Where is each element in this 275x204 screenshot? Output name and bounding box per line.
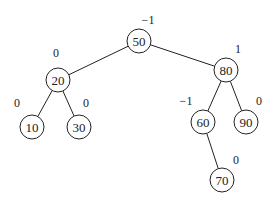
edge-80-90 [230, 81, 241, 111]
balance-factor-60: −1 [180, 94, 193, 108]
node-value: 10 [26, 120, 39, 135]
edge-50-80 [150, 45, 214, 66]
balance-factor-90: 0 [256, 94, 262, 108]
tree-node-70: 70 [210, 168, 234, 192]
tree-node-10: 10 [20, 115, 44, 139]
tree-node-80: 80 [214, 58, 238, 82]
node-value: 90 [240, 115, 253, 130]
balance-factor-10: 0 [14, 96, 20, 110]
balance-factor-80: 1 [235, 42, 241, 56]
node-value: 20 [52, 73, 65, 88]
edge-20-30 [63, 91, 74, 116]
edge-50-20 [69, 46, 128, 75]
node-value: 60 [197, 115, 210, 130]
tree-node-30: 30 [67, 115, 91, 139]
node-value: 30 [73, 120, 86, 135]
edges-layer [38, 45, 242, 169]
avl-tree-diagram: 5020801030609070 −10100−100 [0, 0, 275, 204]
tree-canvas: 5020801030609070 −10100−100 [0, 0, 275, 204]
edge-80-60 [208, 81, 221, 111]
node-value: 80 [220, 63, 233, 78]
tree-node-50: 50 [127, 29, 151, 53]
tree-node-20: 20 [46, 68, 70, 92]
balance-factor-50: −1 [142, 13, 155, 27]
balance-factor-30: 0 [83, 96, 89, 110]
node-value: 50 [133, 34, 146, 49]
balance-factor-20: 0 [53, 46, 59, 60]
edge-20-10 [38, 91, 52, 117]
tree-node-90: 90 [234, 110, 258, 134]
tree-node-60: 60 [191, 110, 215, 134]
node-value: 70 [216, 173, 229, 188]
edge-60-70 [207, 133, 219, 168]
balance-factor-70: 0 [233, 153, 239, 167]
